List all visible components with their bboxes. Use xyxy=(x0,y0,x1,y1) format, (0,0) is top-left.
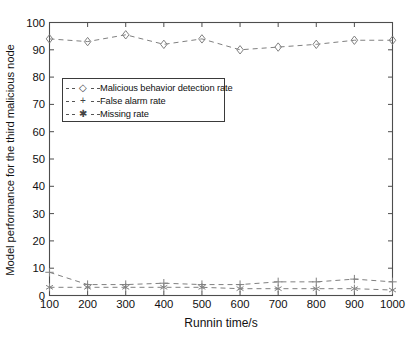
chart-figure: 0102030405060708090100 10020030040050060… xyxy=(0,0,412,340)
x-tick-label: 100 xyxy=(40,298,59,310)
x-axis-ticks: 1002003004005006007008009001000 xyxy=(0,0,412,340)
legend-label: Missing rate xyxy=(100,109,149,119)
x-tick-label: 1000 xyxy=(380,298,405,310)
x-axis-title: Runnin time/s xyxy=(49,316,393,330)
legend-line-left xyxy=(66,88,75,89)
legend-label: Malicious behavior detection rate xyxy=(100,83,233,93)
legend-item-malicious-behavior-detection-rate: ◇ Malicious behavior detection rate xyxy=(66,82,224,94)
legend-sample-asterisk: ✱ xyxy=(66,108,100,120)
legend-line-right xyxy=(91,101,100,102)
legend-line-left xyxy=(66,114,75,115)
legend-sample-diamond: ◇ xyxy=(66,82,100,94)
y-axis-title-text: Model performance for the third maliciou… xyxy=(4,44,16,276)
x-tick-label: 400 xyxy=(154,298,173,310)
legend-sample-plus: + xyxy=(66,95,100,107)
x-tick-label: 300 xyxy=(116,298,135,310)
legend-line-right xyxy=(91,88,100,89)
x-tick-label: 200 xyxy=(78,298,97,310)
x-tick-label: 800 xyxy=(307,298,326,310)
legend-line-right xyxy=(91,114,100,115)
legend-line-left xyxy=(66,101,75,102)
legend-item-missing-rate: ✱ Missing rate xyxy=(66,108,224,120)
legend: ◇ Malicious behavior detection rate + Fa… xyxy=(62,78,225,122)
x-axis-title-text: Runnin time/s xyxy=(184,316,257,330)
asterisk-icon: ✱ xyxy=(79,109,87,119)
x-tick-label: 700 xyxy=(269,298,288,310)
legend-label: False alarm rate xyxy=(100,96,166,106)
diamond-icon: ◇ xyxy=(79,83,87,93)
plus-icon: + xyxy=(80,96,86,106)
y-axis-title: Model performance for the third maliciou… xyxy=(2,20,18,300)
x-tick-label: 500 xyxy=(193,298,212,310)
x-tick-label: 600 xyxy=(231,298,250,310)
legend-item-false-alarm-rate: + False alarm rate xyxy=(66,95,224,107)
x-tick-label: 900 xyxy=(345,298,364,310)
